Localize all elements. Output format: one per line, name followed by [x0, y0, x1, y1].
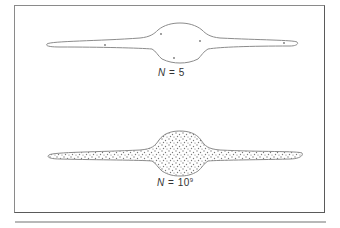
star-point [160, 33, 162, 35]
label-equals: = [169, 67, 175, 78]
label-n-bottom: N = 109 [157, 177, 194, 188]
star-point [199, 40, 201, 42]
label-value: 5 [179, 67, 185, 78]
label-variable: N [158, 67, 166, 78]
star-point [104, 44, 106, 46]
star-point [173, 57, 175, 59]
label-value: 10 [178, 177, 190, 188]
galaxy-top [47, 23, 298, 63]
separator-line [15, 221, 326, 223]
star-point [283, 42, 285, 44]
galaxy-diagram [0, 0, 340, 228]
galaxy-bottom [40, 125, 310, 180]
label-variable: N [157, 177, 165, 188]
label-exponent: 9 [190, 177, 194, 183]
label-n-top: N = 5 [158, 67, 185, 78]
label-equals: = [168, 177, 174, 188]
